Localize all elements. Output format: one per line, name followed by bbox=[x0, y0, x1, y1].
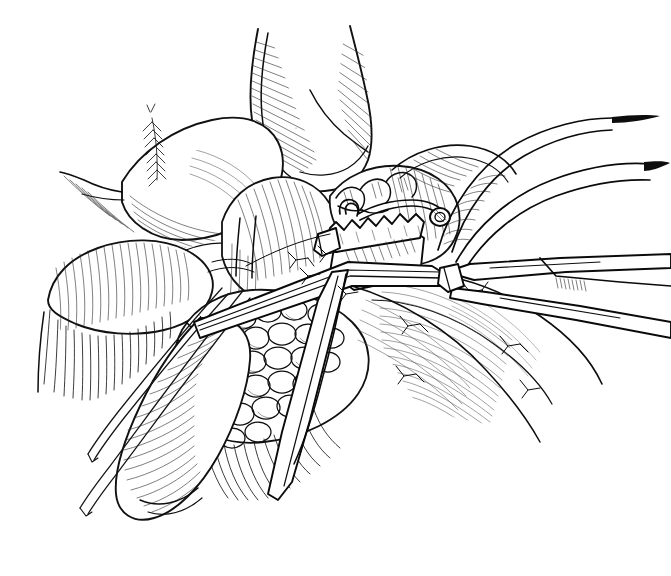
forceps-connector[interactable] bbox=[438, 264, 464, 292]
surgical-illustration-figure bbox=[0, 0, 671, 576]
illustration-canvas bbox=[0, 0, 671, 576]
